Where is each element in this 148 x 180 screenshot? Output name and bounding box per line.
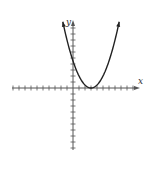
y-axis-arrow-icon [71,20,75,26]
parabola-curve [63,22,119,88]
x-axis-arrow-icon [134,86,140,90]
y-axis-label: y [65,17,72,27]
graph-canvas: x y [0,0,148,180]
x-axis-label: x [138,76,143,86]
